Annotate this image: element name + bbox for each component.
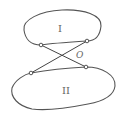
body-1-label: I: [58, 23, 62, 34]
body-1-outline: [24, 10, 101, 45]
pin-body2-left: [29, 71, 33, 75]
pin-body1-right: [85, 39, 89, 43]
diagram-canvas: I II O: [0, 0, 122, 124]
pin-body1-left: [39, 43, 43, 47]
pin-body2-right: [84, 65, 88, 69]
body-2-label: II: [62, 85, 70, 96]
crossing-point-label: O: [76, 50, 84, 60]
